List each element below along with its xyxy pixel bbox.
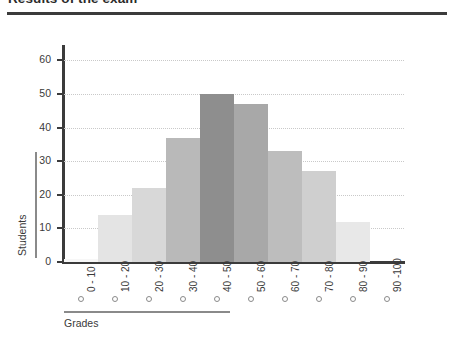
y-tick-label: 20 [25, 188, 51, 200]
x-tick-mark [316, 296, 322, 302]
x-tick-mark [78, 296, 84, 302]
x-tick-label: 50 - 60 [256, 261, 267, 292]
y-tick-label: 0 [25, 255, 51, 267]
bar [302, 171, 336, 262]
y-axis-title-rule [35, 152, 37, 258]
x-tick-label: 10 - 20 [120, 261, 131, 292]
x-tick-label: 90 -100 [392, 258, 403, 292]
histogram-chart: 0102030405060 0 - 1010 - 2020 - 3030 - 4… [0, 0, 453, 342]
bar [64, 259, 98, 262]
x-tick-label: 70 - 80 [324, 261, 335, 292]
y-tick-mark [57, 194, 63, 196]
x-tick-mark [282, 296, 288, 302]
bar [268, 151, 302, 262]
y-tick-label: 10 [25, 221, 51, 233]
y-tick-mark [57, 59, 63, 61]
x-tick-label: 80 - 90 [358, 261, 369, 292]
y-tick-label: 30 [25, 154, 51, 166]
bar [200, 94, 234, 262]
y-tick-mark [57, 160, 63, 162]
y-tick-mark [57, 127, 63, 129]
y-tick-label: 60 [25, 53, 51, 65]
bar [234, 104, 268, 262]
x-tick-mark [248, 296, 254, 302]
y-tick-mark [57, 227, 63, 229]
bar [98, 215, 132, 262]
x-tick-mark [350, 296, 356, 302]
bar [132, 188, 166, 262]
y-axis-title: Students [16, 215, 28, 256]
x-tick-label: 30 - 40 [188, 261, 199, 292]
y-tick-mark [57, 93, 63, 95]
x-tick-label: 0 - 10 [86, 266, 97, 292]
x-tick-mark [146, 296, 152, 302]
x-axis-title: Grades [64, 317, 98, 329]
bar [336, 222, 370, 262]
x-tick-label: 40 - 50 [222, 261, 233, 292]
y-tick-mark [57, 261, 63, 263]
x-tick-mark [384, 296, 390, 302]
bar [166, 138, 200, 262]
x-tick-mark [180, 296, 186, 302]
x-tick-label: 20 - 30 [154, 261, 165, 292]
x-tick-mark [112, 296, 118, 302]
x-tick-label: 60 - 70 [290, 261, 301, 292]
x-axis-title-rule [64, 311, 230, 313]
y-tick-label: 50 [25, 87, 51, 99]
bar-series [64, 47, 404, 262]
y-tick-label: 40 [25, 121, 51, 133]
x-tick-mark [214, 296, 220, 302]
